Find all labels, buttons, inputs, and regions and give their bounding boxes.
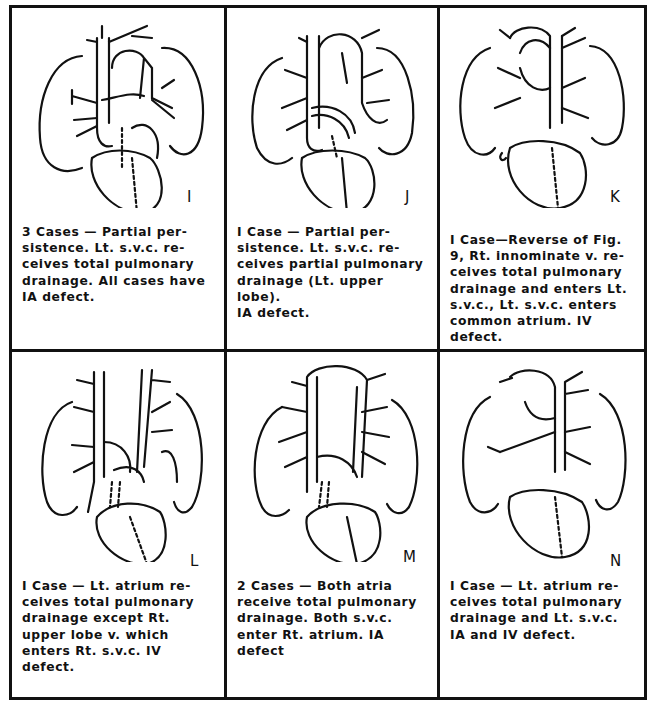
panel-caption: I Case — Lt. atrium re- ceives total pul… [22, 578, 216, 675]
panel-letter: N [610, 552, 621, 570]
panel-l: L I Case — Lt. atrium re- ceives total p… [12, 352, 224, 697]
panel-caption: I Case — Lt. atrium re- ceives total pul… [450, 578, 636, 643]
heart-diagram-icon [12, 352, 224, 562]
panel-caption: I Case — Partial per- sistence. Lt. s.v.… [237, 224, 429, 321]
panel-letter: L [190, 552, 198, 570]
panel-letter: K [610, 188, 620, 206]
panel-letter: M [403, 548, 416, 566]
heart-diagram-icon [440, 352, 644, 562]
panel-caption: 3 Cases — Partial per- sistence. Lt. s.v… [22, 224, 216, 305]
panel-letter: J [405, 188, 409, 206]
panel-caption: I Case—Reverse of Fig. 9, Rt. innominate… [450, 232, 636, 345]
heart-diagram-icon [440, 8, 644, 208]
panel-k: K I Case—Reverse of Fig. 9, Rt. innomina… [440, 8, 644, 349]
panel-j: J I Case — Partial per- sistence. Lt. s.… [227, 8, 437, 349]
heart-diagram-icon [227, 352, 437, 562]
figure-plate: I 3 Cases — Partial per- sistence. Lt. s… [9, 5, 647, 700]
panel-m: M 2 Cases — Both atria receive total pul… [227, 352, 437, 697]
heart-diagram-icon [227, 8, 437, 208]
panel-letter: I [187, 188, 191, 206]
panel-n: N I Case — Lt. atrium re- ceives total p… [440, 352, 644, 697]
heart-diagram-icon [12, 8, 224, 208]
panel-i: I 3 Cases — Partial per- sistence. Lt. s… [12, 8, 224, 349]
panel-caption: 2 Cases — Both atria receive total pulmo… [237, 578, 429, 659]
